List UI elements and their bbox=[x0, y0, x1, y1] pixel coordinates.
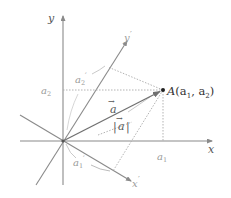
a1-label: a1 bbox=[157, 151, 167, 164]
svg-text:a2′: a2′ bbox=[75, 71, 87, 87]
svg-text:′: ′ bbox=[138, 174, 140, 183]
a-vector-indicator-arc bbox=[128, 97, 150, 112]
point-a bbox=[161, 88, 165, 92]
svg-text:A(a1, a2): A(a1, a2) bbox=[166, 84, 214, 100]
coordinate-rotation-diagram: y x y ′ x ′ A(a1, a2) a2 a1 a2′ a1′ a → … bbox=[0, 0, 231, 198]
svg-text:→: → bbox=[116, 114, 123, 123]
point-a-label: A(a1, a2) bbox=[166, 84, 214, 100]
svg-text:|: | bbox=[126, 120, 130, 134]
a2-prime-projection-line bbox=[108, 67, 163, 90]
x-prime-axis-label: x ′ bbox=[132, 174, 140, 189]
vector-magnitude-label: | a → | bbox=[113, 114, 130, 134]
svg-text:a1′: a1′ bbox=[73, 154, 85, 170]
a1-prime-indicator-arc bbox=[91, 165, 110, 171]
svg-text:a2: a2 bbox=[41, 85, 51, 98]
svg-text:′: ′ bbox=[130, 29, 132, 38]
origin-point bbox=[61, 139, 64, 142]
a2-prime-left-arc bbox=[67, 94, 78, 130]
a2-prime-label: a2′ bbox=[75, 71, 87, 87]
a1-prime-label: a1′ bbox=[73, 154, 85, 170]
a2-prime-indicator-arc bbox=[92, 66, 105, 74]
svg-text:y: y bbox=[123, 32, 130, 43]
a2-label: a2 bbox=[41, 85, 51, 98]
x-axis-label: x bbox=[208, 143, 215, 156]
y-axis-label: y bbox=[47, 12, 55, 25]
svg-text:→: → bbox=[108, 97, 115, 106]
y-prime-axis-label: y ′ bbox=[123, 29, 132, 43]
a1-prime-left-arc bbox=[66, 144, 76, 158]
svg-text:a1: a1 bbox=[157, 151, 167, 164]
